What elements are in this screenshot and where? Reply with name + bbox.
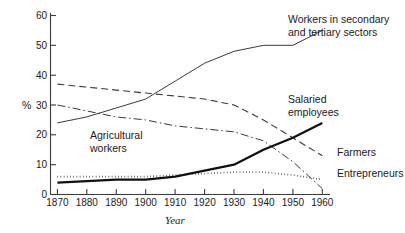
y-tick-label: 40 — [36, 70, 48, 81]
annotation-label-line2: and tertiary sectors — [288, 26, 377, 38]
annotation-agricultural-workers: Agricultural workers — [89, 129, 143, 154]
x-axis-tick-labels: 1870 1880 1890 1900 1910 1920 1930 1940 … — [46, 197, 334, 208]
x-tick-label: 1960 — [311, 197, 334, 208]
y-tick-label: 50 — [36, 40, 48, 51]
y-tick-label: 60 — [36, 10, 48, 21]
x-tick-label: 1910 — [164, 197, 187, 208]
chart-container: 0 10 20 30 40 50 60 % 1870 1880 18 — [0, 0, 405, 233]
annotation-workers-secondary-tertiary: Workers in secondary and tertiary sector… — [288, 13, 390, 38]
annotation-farmers: Farmers — [337, 146, 376, 158]
x-tick-label: 1950 — [282, 197, 305, 208]
annotation-label-line1: Workers in secondary — [288, 13, 390, 25]
annotation-entrepreneurs: Entrepreneurs — [337, 167, 404, 179]
x-tick-label: 1930 — [223, 197, 246, 208]
y-tick-label: 10 — [36, 159, 48, 170]
x-tick-label: 1870 — [46, 197, 69, 208]
y-axis-tick-labels: 0 10 20 30 40 50 60 — [36, 10, 48, 200]
annotation-label-line1: Agricultural — [90, 129, 143, 141]
y-tick-label: 30 — [36, 100, 48, 111]
line-chart: 0 10 20 30 40 50 60 % 1870 1880 18 — [0, 0, 405, 233]
y-axis-ticks — [51, 16, 57, 195]
x-tick-label: 1890 — [105, 197, 128, 208]
y-axis-title: % — [22, 99, 31, 111]
series-line-workers-secondary-tertiary — [57, 30, 322, 122]
x-axis-title: Year — [165, 214, 185, 226]
annotation-label-line2: workers — [89, 142, 127, 154]
annotation-label-line2: employees — [288, 106, 339, 118]
annotation-salaried-employees: Salaried employees — [288, 93, 339, 118]
x-tick-label: 1880 — [76, 197, 99, 208]
annotation-label-line1: Salaried — [288, 93, 327, 105]
x-tick-label: 1900 — [135, 197, 158, 208]
y-tick-label: 20 — [36, 129, 48, 140]
x-tick-label: 1940 — [252, 197, 275, 208]
x-tick-label: 1920 — [193, 197, 216, 208]
x-axis-ticks — [57, 189, 322, 195]
